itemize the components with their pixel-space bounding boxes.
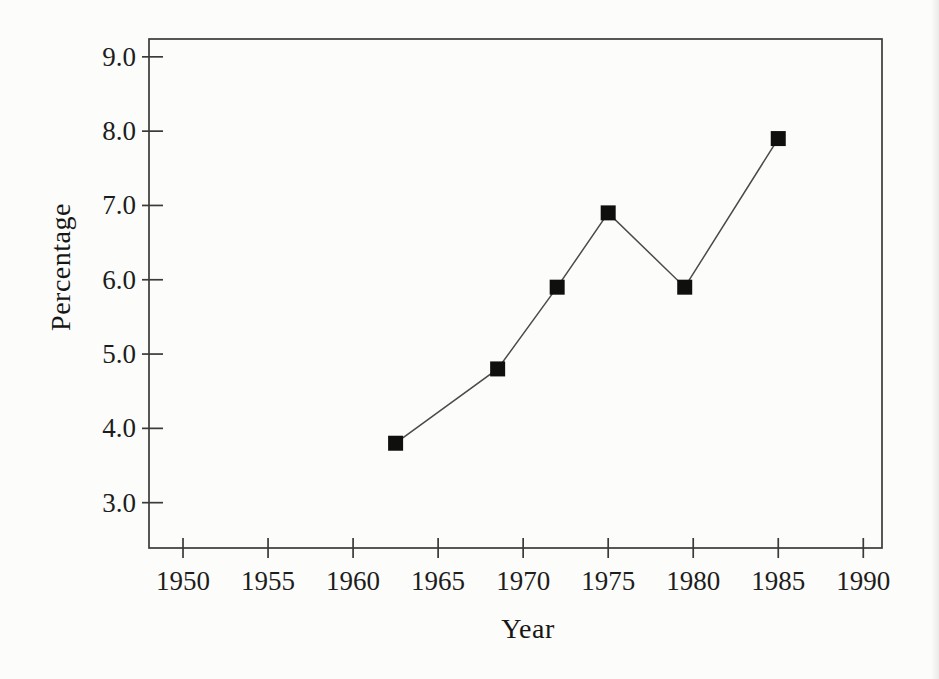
y-tick-label: 6.0 bbox=[102, 265, 136, 295]
scanned-chart-page: 9.08.07.06.05.04.03.01950195519601965197… bbox=[0, 0, 939, 679]
x-tick-label: 1975 bbox=[581, 566, 635, 596]
x-tick-label: 1960 bbox=[326, 566, 380, 596]
data-point-marker bbox=[771, 131, 786, 146]
data-point-marker bbox=[550, 280, 565, 295]
y-tick-label: 9.0 bbox=[102, 42, 136, 72]
plot-frame bbox=[149, 39, 882, 548]
data-line bbox=[396, 139, 779, 444]
y-tick-label: 7.0 bbox=[102, 190, 136, 220]
x-tick-label: 1985 bbox=[751, 566, 805, 596]
line-chart: 9.08.07.06.05.04.03.01950195519601965197… bbox=[0, 0, 939, 679]
data-point-marker bbox=[601, 205, 616, 220]
y-tick-label: 5.0 bbox=[102, 339, 136, 369]
data-point-marker bbox=[677, 280, 692, 295]
y-axis-title: Percentage bbox=[45, 203, 77, 331]
y-tick-label: 8.0 bbox=[102, 116, 136, 146]
x-tick-label: 1980 bbox=[666, 566, 720, 596]
data-point-marker bbox=[490, 361, 505, 376]
x-tick-label: 1955 bbox=[241, 566, 295, 596]
data-point-marker bbox=[388, 436, 403, 451]
x-tick-label: 1970 bbox=[496, 566, 550, 596]
y-tick-label: 3.0 bbox=[102, 488, 136, 518]
x-tick-label: 1965 bbox=[411, 566, 465, 596]
y-tick-label: 4.0 bbox=[102, 413, 136, 443]
x-tick-label: 1950 bbox=[156, 566, 210, 596]
x-axis-title: Year bbox=[501, 613, 555, 645]
x-tick-label: 1990 bbox=[836, 566, 890, 596]
